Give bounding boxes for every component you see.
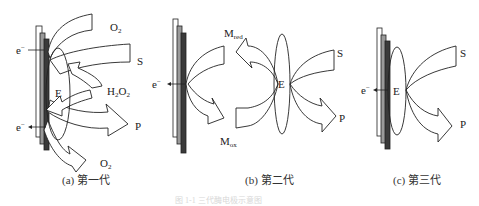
panel-b-diagram <box>167 19 336 153</box>
product-out-arrow <box>290 84 336 132</box>
electron-label-top: e− <box>16 45 25 56</box>
mediator-ox-label: Mox <box>220 136 237 149</box>
electron-label: e− <box>152 79 161 90</box>
substrate-label: S <box>337 48 343 59</box>
product-out-arrow <box>406 90 452 142</box>
enzyme-label: E <box>278 79 285 90</box>
substrate-label: S <box>137 56 143 67</box>
electron-arrowhead <box>28 125 32 129</box>
substrate-in-arrow <box>50 44 130 74</box>
product-label: P <box>135 121 141 132</box>
mediator-reduction-arrow <box>236 38 278 128</box>
panel-b-caption: (b) 第二代 <box>245 175 294 186</box>
product-label: P <box>460 119 466 130</box>
electrode-layer-inner <box>385 41 390 149</box>
electrode-layer-inner <box>181 33 186 153</box>
electron-label-bottom: e− <box>16 122 25 133</box>
peroxide-label: H2O2 <box>107 86 130 99</box>
substrate-label: S <box>460 48 466 59</box>
electron-label: e− <box>361 85 370 96</box>
panel-c-diagram <box>373 28 456 149</box>
substrate-in-arrow <box>406 46 456 90</box>
oxygen-out-label: O2 <box>100 158 111 171</box>
electron-arrowhead <box>167 82 171 86</box>
enzyme-label: E <box>55 88 62 99</box>
figure-caption: 图 1-1 三代酶电极示意图 <box>175 194 262 205</box>
panel-c-caption: (c) 第三代 <box>393 175 441 186</box>
substrate-in-arrow <box>290 50 334 84</box>
mediator-oxidation-arrow <box>186 46 224 124</box>
electron-arrowhead <box>373 88 377 92</box>
mediator-red-label: Mred <box>224 28 243 41</box>
panel-a-caption: (a) 第一代 <box>62 175 110 186</box>
enzyme-label: E <box>393 86 400 97</box>
oxygen-in-label: O2 <box>110 22 121 35</box>
product-label: P <box>339 113 345 124</box>
